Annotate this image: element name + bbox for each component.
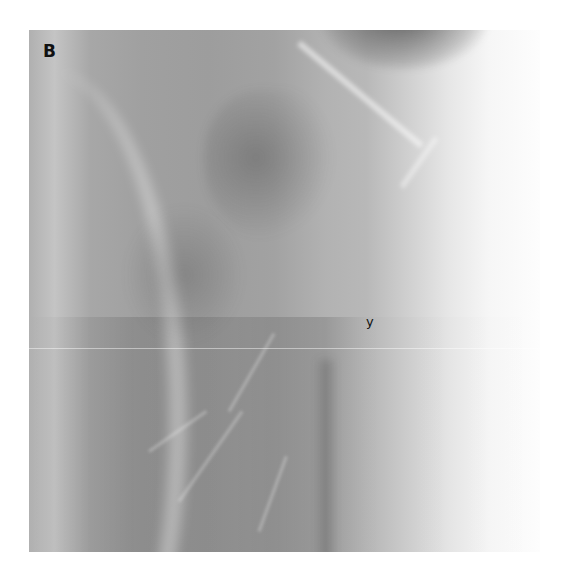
radiograph-image: B y — [29, 30, 540, 552]
annotation-label-y: y — [366, 315, 374, 328]
upper-cavity — [204, 90, 334, 240]
vertical-edge-shadow — [319, 360, 333, 552]
scan-artifact-line — [29, 348, 540, 349]
mid-cavity — [124, 205, 244, 345]
panel-label: B — [43, 43, 56, 60]
